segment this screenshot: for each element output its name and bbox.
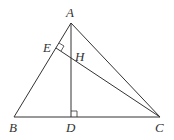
- label-a: A: [65, 5, 74, 20]
- right-angle-mark-e: [59, 43, 64, 51]
- right-angle-mark-d: [71, 111, 77, 117]
- label-d: D: [65, 120, 76, 135]
- segment-ab: [14, 23, 71, 117]
- label-e: E: [42, 40, 51, 55]
- geometry-diagram: A B C D E H: [0, 0, 174, 140]
- altitude-ce: [56, 48, 160, 117]
- label-h: H: [74, 49, 85, 64]
- segment-ac: [71, 23, 160, 117]
- label-c: C: [155, 120, 164, 135]
- label-b: B: [9, 120, 17, 135]
